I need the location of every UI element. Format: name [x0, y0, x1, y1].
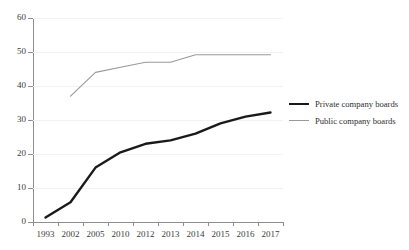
legend-item[interactable]: Public company boards	[289, 113, 409, 128]
x-axis-tick-label: 2017	[254, 229, 288, 240]
x-axis-tick	[83, 222, 84, 226]
legend-item-label: Private company boards	[315, 99, 398, 109]
y-axis-tick-label: 0	[0, 217, 26, 226]
x-axis-tick	[283, 222, 284, 226]
x-axis-tick	[258, 222, 259, 226]
x-axis-tick	[58, 222, 59, 226]
legend-item-label: Public company boards	[315, 116, 396, 126]
y-axis-tick-label: 30	[0, 115, 26, 124]
y-axis-tick-label: 40	[0, 81, 26, 90]
y-axis-tick-label: 20	[0, 149, 26, 158]
series-lines	[33, 18, 283, 222]
x-axis-tick	[33, 222, 34, 226]
series-line	[71, 55, 271, 96]
x-axis-tick	[158, 222, 159, 226]
x-axis-tick	[183, 222, 184, 226]
legend-item[interactable]: Private company boards	[289, 96, 409, 111]
x-axis-tick	[233, 222, 234, 226]
x-axis-tick	[133, 222, 134, 226]
line-swatch-gray-icon	[289, 120, 309, 121]
x-axis-tick	[208, 222, 209, 226]
y-axis-tick-label: 50	[0, 47, 26, 56]
y-axis-tick-label: 60	[0, 13, 26, 22]
x-axis-tick	[108, 222, 109, 226]
line-swatch-black-icon	[289, 103, 309, 105]
chart-legend: Private company boardsPublic company boa…	[289, 96, 409, 130]
line-chart-figure: 0102030405060 19932002200520102012201320…	[0, 0, 409, 250]
y-axis-tick-labels: 0102030405060	[0, 0, 26, 250]
y-axis-tick-label: 10	[0, 183, 26, 192]
plot-area	[33, 18, 283, 222]
series-line	[46, 113, 271, 218]
